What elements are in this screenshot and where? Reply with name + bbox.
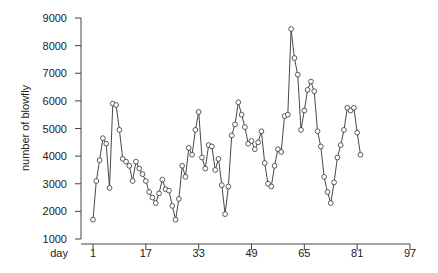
x-axis: 1173349658197 bbox=[81, 244, 416, 259]
x-tick-label: 17 bbox=[140, 247, 152, 259]
data-point-marker bbox=[147, 190, 152, 195]
y-tick-label: 7000 bbox=[43, 67, 67, 79]
x-tick-label: 33 bbox=[193, 247, 205, 259]
data-point-marker bbox=[295, 72, 300, 77]
x-tick-label: 81 bbox=[351, 247, 363, 259]
data-point-marker bbox=[219, 183, 224, 188]
data-point-marker bbox=[305, 87, 310, 92]
y-tick-label: 1000 bbox=[43, 233, 67, 245]
data-point-marker bbox=[186, 145, 191, 150]
data-point-marker bbox=[153, 201, 158, 206]
data-point-marker bbox=[259, 129, 264, 134]
data-point-marker bbox=[167, 188, 172, 193]
data-point-marker bbox=[107, 185, 112, 190]
blowfly-line-chart: 100020003000400050006000700080009000 117… bbox=[0, 0, 438, 273]
data-point-marker bbox=[183, 174, 188, 179]
data-point-marker bbox=[335, 155, 340, 160]
data-point-marker bbox=[190, 152, 195, 157]
data-point-marker bbox=[272, 163, 277, 168]
data-point-marker bbox=[196, 110, 201, 115]
data-point-marker bbox=[351, 105, 356, 110]
data-point-marker bbox=[216, 156, 221, 161]
data-point-marker bbox=[94, 179, 99, 184]
data-point-marker bbox=[236, 100, 241, 105]
y-tick-label: 4000 bbox=[43, 150, 67, 162]
x-axis-title: day bbox=[50, 247, 68, 259]
data-point-marker bbox=[285, 112, 290, 117]
data-point-marker bbox=[342, 127, 347, 132]
data-point-marker bbox=[262, 161, 267, 166]
data-point-marker bbox=[104, 141, 109, 146]
y-tick-label: 9000 bbox=[43, 12, 67, 24]
data-point-marker bbox=[309, 79, 314, 84]
data-point-marker bbox=[269, 184, 274, 189]
data-point-marker bbox=[127, 163, 132, 168]
x-tick-label: 65 bbox=[298, 247, 310, 259]
data-point-marker bbox=[328, 201, 333, 206]
series-line bbox=[93, 29, 361, 220]
data-point-marker bbox=[223, 212, 228, 217]
data-point-marker bbox=[233, 122, 238, 127]
data-point-marker bbox=[180, 163, 185, 168]
data-point-marker bbox=[242, 125, 247, 130]
data-point-marker bbox=[302, 108, 307, 113]
data-point-marker bbox=[289, 27, 294, 32]
data-point-marker bbox=[325, 190, 330, 195]
y-tick-label: 6000 bbox=[43, 95, 67, 107]
data-point-marker bbox=[355, 130, 360, 135]
data-point-marker bbox=[213, 168, 218, 173]
data-point-marker bbox=[173, 217, 178, 222]
data-point-marker bbox=[322, 174, 327, 179]
y-axis-title: number of blowfly bbox=[19, 84, 31, 171]
data-point-marker bbox=[117, 127, 122, 132]
data-point-marker bbox=[292, 56, 297, 61]
data-point-marker bbox=[101, 136, 106, 141]
data-point-marker bbox=[239, 112, 244, 117]
data-point-marker bbox=[318, 144, 323, 149]
data-point-marker bbox=[114, 103, 119, 108]
data-point-marker bbox=[209, 144, 214, 149]
data-point-marker bbox=[134, 159, 139, 164]
data-point-marker bbox=[249, 139, 254, 144]
y-tick-label: 5000 bbox=[43, 123, 67, 135]
x-tick-label: 1 bbox=[90, 247, 96, 259]
data-point-marker bbox=[157, 191, 162, 196]
y-axis: 100020003000400050006000700080009000 bbox=[43, 12, 81, 245]
data-point-marker bbox=[332, 180, 337, 185]
y-tick-label: 2000 bbox=[43, 205, 67, 217]
data-point-marker bbox=[358, 152, 363, 157]
data-point-marker bbox=[229, 133, 234, 138]
data-point-marker bbox=[91, 217, 96, 222]
y-tick-label: 3000 bbox=[43, 178, 67, 190]
data-point-marker bbox=[279, 150, 284, 155]
y-tick-label: 8000 bbox=[43, 40, 67, 52]
data-point-marker bbox=[150, 195, 155, 200]
data-point-marker bbox=[130, 179, 135, 184]
data-point-marker bbox=[203, 166, 208, 171]
data-point-marker bbox=[193, 127, 198, 132]
data-point-marker bbox=[176, 197, 181, 202]
data-point-marker bbox=[170, 203, 175, 208]
data-point-marker bbox=[137, 166, 142, 171]
data-point-marker bbox=[299, 127, 304, 132]
data-point-marker bbox=[140, 172, 145, 177]
data-point-marker bbox=[315, 129, 320, 134]
data-point-marker bbox=[143, 179, 148, 184]
data-point-marker bbox=[252, 147, 257, 152]
x-tick-label: 97 bbox=[404, 247, 416, 259]
data-point-marker bbox=[97, 158, 102, 163]
data-point-marker bbox=[124, 159, 129, 164]
data-point-marker bbox=[200, 155, 205, 160]
data-point-marker bbox=[226, 184, 231, 189]
x-tick-label: 49 bbox=[245, 247, 257, 259]
data-point-marker bbox=[312, 89, 317, 94]
data-point-marker bbox=[338, 143, 343, 148]
data-point-marker bbox=[160, 177, 165, 182]
data-series bbox=[91, 27, 363, 222]
data-point-marker bbox=[256, 140, 261, 145]
